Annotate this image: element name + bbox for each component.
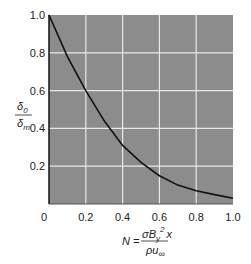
svg-text:σBy2x: σBy2x	[142, 225, 172, 243]
x-axis-label: N = σBy2x ρu∞	[122, 225, 172, 259]
svg-text:1.0: 1.0	[30, 9, 45, 21]
chart: 00.20.40.60.81.0 0.20.40.60.81.0 δ0 δm N…	[0, 0, 251, 264]
svg-text:0.8: 0.8	[189, 211, 204, 223]
x-tick-labels: 00.20.40.60.81.0	[41, 211, 241, 223]
y-axis-label: δ0 δm	[15, 100, 32, 132]
svg-text:0.6: 0.6	[30, 85, 45, 97]
svg-text:δ0: δ0	[17, 100, 28, 115]
svg-text:δm: δm	[17, 117, 30, 132]
svg-text:0: 0	[41, 211, 47, 223]
plot-area	[49, 15, 233, 204]
svg-text:ρu∞: ρu∞	[145, 244, 165, 259]
svg-text:N =: N =	[122, 235, 140, 247]
svg-text:0.4: 0.4	[30, 122, 45, 134]
svg-text:0.4: 0.4	[115, 211, 130, 223]
svg-text:0.6: 0.6	[152, 211, 167, 223]
y-tick-labels: 0.20.40.60.81.0	[30, 9, 45, 172]
svg-text:0.8: 0.8	[30, 47, 45, 59]
svg-text:1.0: 1.0	[225, 211, 240, 223]
svg-text:0.2: 0.2	[30, 160, 45, 172]
svg-text:0.2: 0.2	[78, 211, 93, 223]
